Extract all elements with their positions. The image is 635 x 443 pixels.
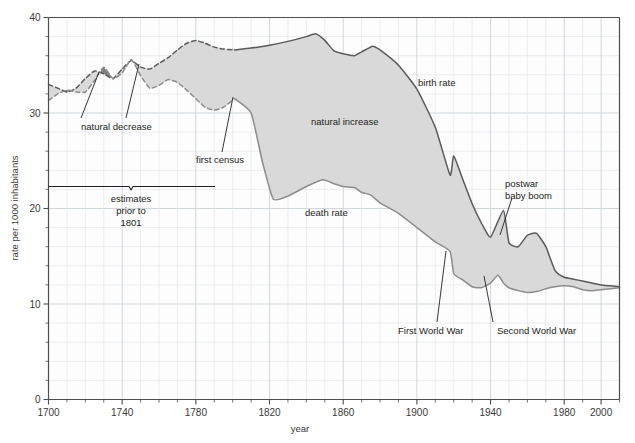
estimates-label-line2: prior to <box>116 205 146 216</box>
death-rate-label: death rate <box>305 207 348 218</box>
x-tick-label: 1980 <box>553 407 576 418</box>
postwar-baby-boom-label-line2: baby boom <box>505 190 552 201</box>
y-tick-label: 0 <box>35 394 41 405</box>
x-tick-label: 1860 <box>332 407 355 418</box>
birth-rate-label: birth rate <box>418 77 456 88</box>
first-world-war-label: First World War <box>398 325 463 336</box>
y-tick-label: 20 <box>29 203 41 214</box>
x-tick-label: 1780 <box>185 407 208 418</box>
y-axis-title: rate per 1000 inhabitants <box>9 155 20 260</box>
x-axis-title: year <box>291 423 309 434</box>
natural-increase-label: natural increase <box>311 116 379 127</box>
x-tick-label: 1700 <box>37 407 60 418</box>
x-tick-label: 1900 <box>406 407 429 418</box>
x-tick-label: 2000 <box>590 407 613 418</box>
estimates-label-line1: estimates <box>111 193 152 204</box>
demographic-transition-chart: 0102030401700174017801820186019001940198… <box>0 0 635 443</box>
postwar-baby-boom-label-line1: postwar <box>505 178 538 189</box>
first-census-label: first census <box>196 154 244 165</box>
estimates-label-line3: 1801 <box>120 217 141 228</box>
y-tick-label: 30 <box>29 108 41 119</box>
x-tick-label: 1940 <box>479 407 502 418</box>
chart-canvas: 0102030401700174017801820186019001940198… <box>0 0 635 443</box>
x-tick-label: 1820 <box>258 407 281 418</box>
y-tick-label: 10 <box>29 299 41 310</box>
y-tick-label: 40 <box>29 12 41 23</box>
x-tick-label: 1740 <box>111 407 134 418</box>
second-world-war-label: Second World War <box>497 325 576 336</box>
natural-decrease-label: natural decrease <box>81 121 152 132</box>
